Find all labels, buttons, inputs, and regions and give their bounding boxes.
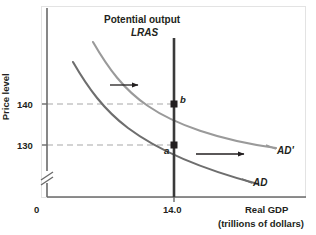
x-axis-label: Real GDP [245,205,288,215]
equilibrium-point-b-marker [171,101,178,108]
economics-ad-lras-chart: Potential output LRAS Price level 140 13… [0,0,316,235]
y-tick-label-140: 140 [17,100,33,110]
equilibrium-point-a-label: a [164,146,169,156]
y-axis-label: Price level [1,73,11,120]
equilibrium-point-a-marker [171,142,178,149]
x-tick-label-14: 14.0 [163,205,182,215]
ad-curve-label: AD [253,178,267,188]
equilibrium-point-b-label: b [180,95,186,105]
x-axis-units-label: (trillions of dollars) [218,219,304,229]
y-tick-label-130: 130 [17,141,33,151]
lras-label: LRAS [131,28,158,38]
ad-prime-curve-label: AD' [277,146,294,156]
chart-title: Potential output [104,15,180,25]
origin-label: 0 [34,205,39,215]
ad-curve [73,62,258,184]
